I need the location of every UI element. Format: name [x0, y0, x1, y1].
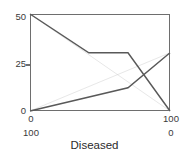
chart-container: 50 25 0 0 100 100 0 Diseased — [0, 0, 189, 159]
y-tick-label-50: 50 — [2, 12, 26, 22]
y-tick-mark-25 — [26, 64, 31, 66]
x-tick-label-secondary-right: 0 — [156, 128, 186, 138]
series-group — [30, 14, 170, 111]
x-tick-label-primary-left: 0 — [16, 114, 46, 124]
y-tick-label-25: 25 — [2, 59, 26, 69]
x-tick-label-primary-right: 100 — [156, 114, 186, 124]
x-tick-label-secondary-left: 100 — [16, 128, 46, 138]
plot-area — [30, 14, 170, 111]
x-axis-title: Diseased — [0, 139, 189, 151]
